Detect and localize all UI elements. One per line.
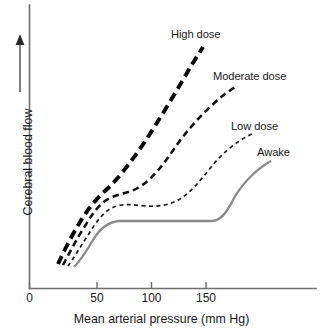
curve-high-dose bbox=[58, 47, 203, 264]
label-high-dose: High dose bbox=[171, 28, 220, 40]
x-tick-label-50: 50 bbox=[77, 291, 117, 305]
x-tick-label-100: 100 bbox=[132, 291, 172, 305]
label-awake: Awake bbox=[257, 146, 290, 158]
curve-moderate-dose bbox=[63, 87, 235, 265]
label-low-dose: Low dose bbox=[231, 120, 278, 132]
y-axis-title: Cerebral blood flow bbox=[21, 82, 35, 242]
x-tick-label-150: 150 bbox=[186, 291, 226, 305]
cerebral-blood-flow-chart: High dose Moderate dose Low dose Awake 0… bbox=[0, 0, 323, 334]
x-tick-label-0: 0 bbox=[10, 291, 50, 305]
label-moderate-dose: Moderate dose bbox=[213, 70, 286, 82]
chart-plot-area bbox=[0, 0, 323, 334]
x-axis-title: Mean arterial pressure (mm Hg) bbox=[0, 312, 323, 326]
